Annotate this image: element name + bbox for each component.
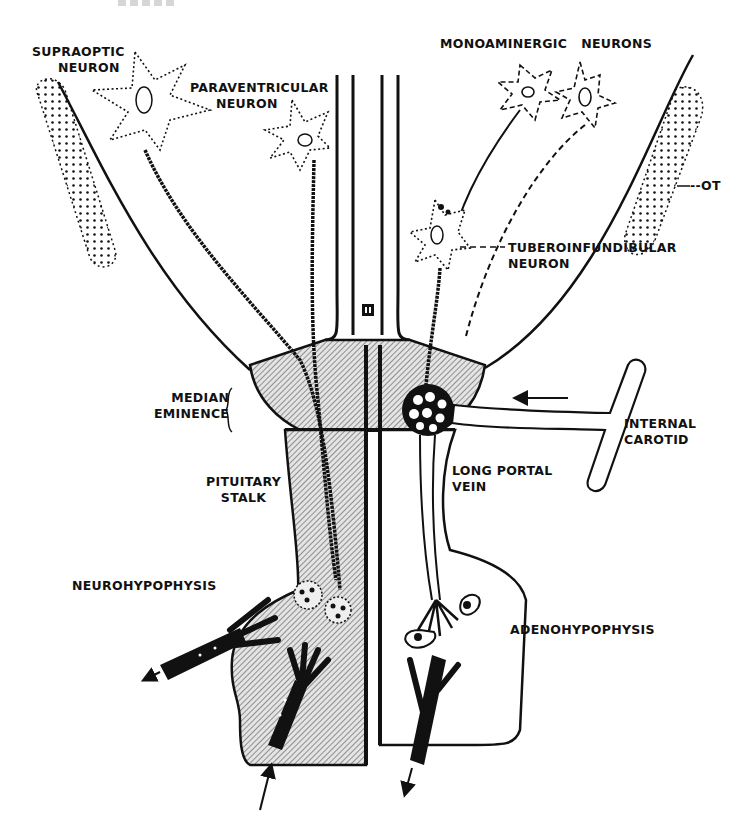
label-ot: --OT (690, 178, 721, 194)
label-pituitary-stalk-line1: PITUITARY (206, 474, 281, 490)
label-supraoptic-line1: SUPRAOPTIC (32, 44, 125, 60)
label-tuberoinfundibular-line2: NEURON (508, 256, 677, 272)
label-paraventricular-neuron: PARAVENTRICULAR NEURON (190, 80, 329, 112)
third-ventricle-mark-gap-right (369, 307, 371, 313)
third-ventricle-mark-gap-left (365, 307, 367, 313)
label-long-portal-vein: LONG PORTAL VEIN (452, 463, 553, 495)
label-median-eminence-line1: MEDIAN (154, 390, 229, 406)
label-internal-carotid-line2: CAROTID (624, 432, 696, 448)
label-tuberoinfundibular-neuron: TUBEROINFUNDIBULAR NEURON (508, 240, 677, 272)
label-median-eminence-line2: EMINENCE (154, 406, 229, 422)
monoaminergic-neurons (450, 62, 615, 340)
label-monoaminergic-neurons: MONOAMINERGIC NEURONS (440, 36, 652, 52)
label-neurohypophysis: NEUROHYPOPHYSIS (72, 578, 217, 594)
label-adenohypophysis: ADENOHYPOPHYSIS (510, 622, 655, 638)
label-supraoptic-line2: NEURON (32, 60, 125, 76)
label-supraoptic-neuron: SUPRAOPTIC NEURON (32, 44, 125, 76)
hypothalamo-pituitary-diagram (0, 0, 748, 824)
label-tuberoinfundibular-line1: TUBEROINFUNDIBULAR (508, 240, 677, 256)
label-paraventricular-line2: NEURON (190, 96, 329, 112)
label-pituitary-stalk-line2: STALK (206, 490, 281, 506)
third-ventricle-mark (362, 304, 374, 316)
label-long-portal-vein-line1: LONG PORTAL (452, 463, 553, 479)
label-paraventricular-line1: PARAVENTRICULAR (190, 80, 329, 96)
primary-capillary-plexus (402, 384, 454, 436)
label-pituitary-stalk: PITUITARY STALK (206, 474, 281, 506)
label-long-portal-vein-line2: VEIN (452, 479, 553, 495)
label-internal-carotid-line1: INTERNAL (624, 416, 696, 432)
label-median-eminence: MEDIAN EMINENCE (154, 390, 229, 422)
label-internal-carotid: INTERNAL CAROTID (624, 416, 696, 448)
third-ventricle (325, 75, 410, 340)
